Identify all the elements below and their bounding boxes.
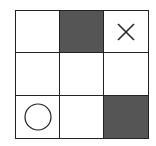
cell-r0-c1-blocked: [59, 10, 104, 53]
game-board: [15, 10, 148, 138]
cell-r1-c1[interactable]: [59, 52, 104, 96]
o-mark-icon: [23, 102, 53, 132]
cell-r1-c2[interactable]: [103, 52, 149, 96]
cell-r2-c0[interactable]: [15, 95, 60, 139]
cell-r0-c0[interactable]: [15, 10, 60, 53]
cell-r0-c2[interactable]: [103, 10, 149, 53]
cell-r1-c0[interactable]: [15, 52, 60, 96]
cell-r2-c2-blocked: [103, 95, 149, 139]
cell-r2-c1[interactable]: [59, 95, 104, 139]
x-mark-icon: [115, 21, 137, 43]
